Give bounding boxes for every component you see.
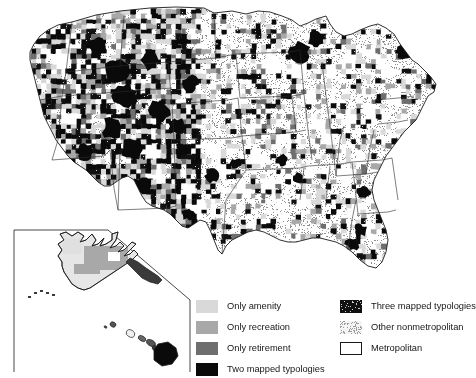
swatch-only-recreation bbox=[196, 321, 218, 334]
legend-column-right: Three mapped typologies Other nonmetropo… bbox=[340, 296, 476, 359]
swatch-other-nonmetropolitan bbox=[340, 321, 362, 334]
legend-item-two-mapped-typologies: Two mapped typologies bbox=[196, 359, 325, 378]
legend-label: Three mapped typologies bbox=[371, 302, 476, 311]
legend-item-only-recreation: Only recreation bbox=[196, 317, 325, 338]
swatch-three-mapped-typologies bbox=[340, 300, 362, 313]
swatch-two-mapped-typologies bbox=[196, 363, 218, 376]
legend-label: Metropolitan bbox=[371, 344, 422, 353]
legend-item-other-nonmetropolitan: Other nonmetropolitan bbox=[340, 317, 476, 338]
legend-label: Only recreation bbox=[227, 323, 290, 332]
swatch-only-amenity bbox=[196, 300, 218, 313]
legend-item-metropolitan: Metropolitan bbox=[340, 338, 476, 359]
legend-label: Only retirement bbox=[227, 344, 291, 353]
swatch-metropolitan bbox=[340, 342, 362, 355]
legend-item-only-retirement: Only retirement bbox=[196, 338, 325, 359]
legend-column-left: Only amenity Only recreation Only retire… bbox=[196, 296, 325, 378]
legend-label: Two mapped typologies bbox=[227, 365, 325, 374]
legend-label: Only amenity bbox=[227, 302, 281, 311]
swatch-only-retirement bbox=[196, 342, 218, 355]
map-legend: Only amenity Only recreation Only retire… bbox=[196, 296, 469, 368]
legend-item-three-mapped-typologies: Three mapped typologies bbox=[340, 296, 476, 317]
legend-item-only-amenity: Only amenity bbox=[196, 296, 325, 317]
legend-label: Other nonmetropolitan bbox=[371, 323, 464, 332]
